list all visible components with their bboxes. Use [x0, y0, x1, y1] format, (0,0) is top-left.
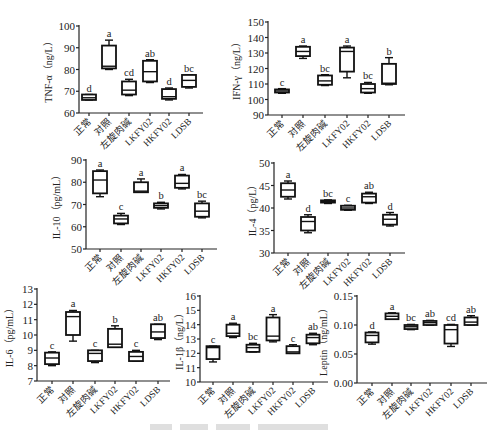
- significance-label: ab: [466, 304, 476, 315]
- box-iqr: [162, 89, 176, 99]
- significance-label: ab: [153, 312, 163, 323]
- y-tick-label: 60: [64, 107, 76, 119]
- figure-canvas: 60708090100TNF-α（ng/L）正常对照左旋肉碱LKFY02HKFY…: [0, 0, 497, 435]
- box-iqr: [465, 317, 478, 325]
- y-tick-label: 11: [22, 314, 33, 326]
- box-iqr: [195, 203, 209, 216]
- y-tick-label: 45: [259, 180, 271, 192]
- y-tick-label: 7: [28, 375, 34, 387]
- box-5: d: [162, 76, 176, 100]
- box-6: b: [382, 46, 396, 85]
- box-1: a: [281, 169, 295, 199]
- y-tick-label: 90: [71, 154, 83, 166]
- y-tick-label: 70: [71, 199, 83, 211]
- y-tick-label: 0.00: [334, 377, 354, 389]
- x-category-label: 正常: [264, 118, 286, 140]
- box-iqr: [93, 171, 107, 193]
- significance-label: bc: [406, 312, 416, 323]
- box-iqr: [366, 333, 379, 343]
- panel-il-6: 78910111213IL-6（pg/mL）正常对照左旋肉碱LKFY02HKFY…: [4, 283, 170, 420]
- y-tick-label: 50: [259, 157, 271, 169]
- significance-label: c: [280, 77, 285, 88]
- panel-il-1beta: 10111213141516IL-1β（ng/L）正常对照左旋肉碱LKFY02H…: [174, 290, 328, 421]
- y-tick-label: 120: [248, 63, 265, 75]
- y-axis-title: IL-1β（ng/L）: [174, 308, 185, 370]
- significance-label: bc: [363, 70, 373, 81]
- box-1: d: [366, 320, 379, 344]
- box-1: c: [275, 77, 289, 94]
- significance-label: c: [291, 333, 296, 344]
- significance-label: d: [305, 203, 311, 214]
- box-2: a: [102, 28, 116, 69]
- significance-label: c: [119, 201, 124, 212]
- significance-label: a: [139, 167, 144, 178]
- y-tick-label: 9: [28, 344, 34, 356]
- box-iqr: [267, 318, 280, 341]
- box-1: a: [93, 158, 107, 197]
- box-5: ab: [362, 180, 376, 203]
- box-5: c: [129, 338, 143, 361]
- box-iqr: [227, 325, 240, 336]
- box-4: b: [154, 190, 168, 209]
- significance-label: bc: [197, 189, 207, 200]
- y-tick-label: 0.15: [334, 290, 354, 302]
- significance-label: a: [107, 28, 112, 39]
- box-iqr: [445, 325, 458, 344]
- box-iqr: [318, 75, 332, 84]
- panel-ifn-gamma: 90100110120130140150IFN-γ（ng/L）正常对照左旋肉碱L…: [231, 16, 405, 154]
- y-tick-label: 0.10: [334, 319, 354, 331]
- y-tick-label: 12: [185, 347, 196, 359]
- box-4: ab: [143, 48, 157, 83]
- box-iqr: [247, 345, 260, 352]
- significance-label: bc: [248, 331, 258, 342]
- y-tick-label: 100: [248, 94, 265, 106]
- y-tick-label: 130: [248, 47, 265, 59]
- box-4: a: [267, 303, 280, 342]
- y-tick-label: 150: [248, 16, 265, 28]
- significance-label: ab: [308, 321, 318, 332]
- x-category-label: 正常: [195, 385, 217, 407]
- box-iqr: [362, 194, 376, 203]
- box-5: c: [287, 333, 300, 354]
- significance-label: a: [71, 298, 76, 309]
- box-iqr: [102, 46, 116, 69]
- box-6: ab: [465, 304, 478, 325]
- significance-label: a: [286, 169, 291, 180]
- box-6: bc: [195, 189, 209, 218]
- box-1: c: [45, 340, 59, 366]
- box-3: cd: [122, 67, 136, 95]
- significance-label: a: [231, 311, 236, 322]
- panel-leptin: 0.000.050.100.15Leptin（ng/mL）正常对照左旋肉碱LKF…: [318, 290, 487, 422]
- box-2: c: [114, 201, 128, 224]
- y-tick-label: 110: [248, 78, 265, 90]
- box-iqr: [122, 81, 136, 94]
- panel-tnf-alpha: 60708090100TNF-α（ng/L）正常对照左旋肉碱LKFY02HKFY…: [43, 20, 203, 152]
- significance-label: c: [346, 193, 351, 204]
- significance-label: a: [345, 34, 350, 45]
- x-category-label: LDSB: [169, 116, 193, 140]
- y-tick-label: 90: [253, 109, 265, 121]
- box-iqr: [175, 176, 189, 188]
- significance-label: ab: [364, 180, 374, 191]
- y-tick-label: 100: [59, 20, 76, 32]
- box-1: c: [207, 334, 220, 362]
- box-4: a: [340, 34, 354, 78]
- x-category-label: 正常: [82, 252, 104, 274]
- significance-label: d: [387, 201, 393, 212]
- significance-label: ab: [145, 48, 155, 59]
- significance-label: c: [50, 340, 55, 351]
- box-5: bc: [361, 70, 375, 93]
- box-4: b: [108, 314, 122, 347]
- box-5: cd: [445, 312, 458, 346]
- box-iqr: [301, 217, 315, 231]
- x-category-label: 正常: [34, 384, 56, 406]
- box-iqr: [382, 64, 396, 84]
- box-iqr: [66, 312, 80, 335]
- y-tick-label: 13: [22, 283, 34, 295]
- significance-label: bc: [184, 63, 194, 74]
- y-tick-label: 15: [185, 304, 197, 316]
- y-axis-title: IL-10（pg/mL）: [51, 170, 62, 239]
- panel-il-10: 5060708090IL-10（pg/mL）正常对照左旋肉碱LKFY02HKFY…: [51, 154, 217, 288]
- significance-label: c: [134, 338, 139, 349]
- x-category-label: 正常: [270, 256, 292, 278]
